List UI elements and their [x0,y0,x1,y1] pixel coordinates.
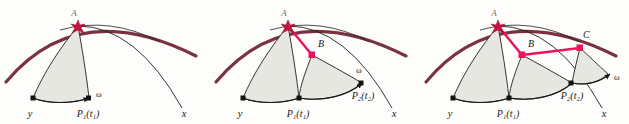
y-endpoint-marker-panel-3 [451,96,456,101]
p1-label-panel-1: P₁(t₁) [76,108,100,120]
omega-label-panel-3: ω [614,72,620,82]
segment-b-c-panel-3 [522,48,580,55]
p1-endpoint-marker-panel-2 [297,96,302,101]
shaded-sector-panel-1 [33,26,89,103]
point-b-label-panel-2: B [318,38,324,49]
p1-endpoint-marker-panel-3 [507,96,512,101]
outer-arc-panel-1 [6,31,196,82]
panel-2: y x ω P₁(t₁) P₂(t₂) A B [216,8,406,120]
x-axis-label-panel-3: x [601,108,607,119]
figure-container: y x ω P₁(t₁) A [0,0,629,124]
trajectory-curve-panel-1 [78,26,182,108]
p2-label-panel-3: P₂(t₂) [560,90,584,102]
p2-label-panel-2: P₂(t₂) [351,90,375,102]
point-b-marker-panel-3 [519,52,526,59]
diagram-svg: y x ω P₁(t₁) A [0,0,629,124]
y-axis-label-panel-2: y [237,108,243,119]
p1-label-panel-3: P₁(t₁) [496,108,520,120]
p1-label-panel-2: P₁(t₁) [286,108,310,120]
panel-1: y x ω P₁(t₁) A [6,8,196,120]
p1-endpoint-marker-panel-1 [86,96,91,101]
omega-label-panel-2: ω [356,65,362,75]
apex-label-panel-3: A [490,8,497,18]
shaded-sector-1-panel-3 [453,26,509,103]
p2-endpoint-marker-panel-2 [359,81,364,86]
point-c-label-panel-3: C [583,29,590,40]
y-axis-label-panel-3: y [447,108,453,119]
panel-3: y x ω P₁(t₁) P₂(t₂) A B C [426,8,620,120]
point-c-marker-panel-3 [577,45,584,52]
omega-label-panel-1: ω [96,89,102,99]
p2-endpoint-marker-panel-3 [569,81,574,86]
y-endpoint-marker-panel-1 [31,96,36,101]
apex-label-panel-2: A [280,8,287,18]
point-b-marker-panel-2 [309,52,316,59]
x-axis-label-panel-1: x [181,108,187,119]
x-axis-label-panel-2: x [391,108,397,119]
shaded-sector-1-panel-2 [243,26,299,103]
y-axis-label-panel-1: y [27,108,33,119]
point-b-label-panel-3: B [528,38,534,49]
y-endpoint-marker-panel-2 [241,96,246,101]
apex-label-panel-1: A [70,8,77,18]
